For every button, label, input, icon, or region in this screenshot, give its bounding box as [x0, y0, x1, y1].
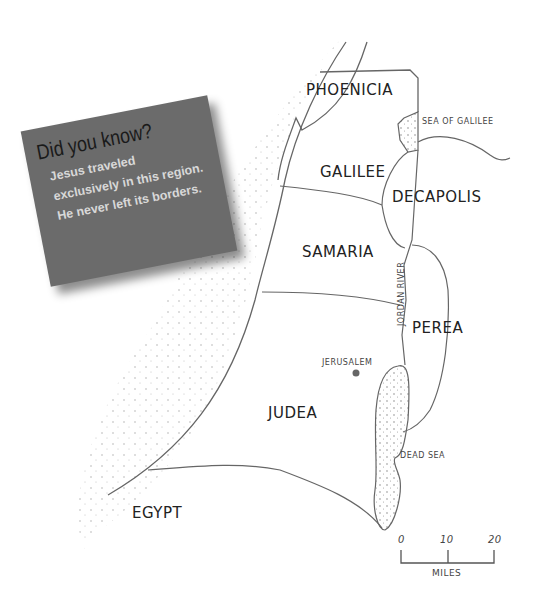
scale-tick-20: 20 — [488, 534, 502, 545]
label-samaria: SAMARIA — [302, 243, 374, 261]
label-egypt: EGYPT — [132, 504, 183, 522]
scale-unit: MILES — [432, 568, 461, 578]
label-sea-of-galilee: SEA OF GALILEE — [422, 117, 494, 126]
label-decapolis: DECAPOLIS — [392, 188, 481, 206]
map: PHOENICIA GALILEE DECAPOLIS SAMARIA PERE… — [0, 0, 535, 608]
perea-border — [403, 245, 448, 432]
scale-tick-0: 0 — [398, 534, 405, 545]
dead-sea — [374, 366, 409, 530]
jerusalem-marker[interactable] — [353, 370, 360, 377]
label-perea: PEREA — [412, 319, 463, 337]
judea-egypt-border — [148, 465, 382, 528]
scale-tick-10: 10 — [440, 534, 454, 545]
sea-of-galilee — [398, 112, 418, 152]
samaria-judea-border — [262, 292, 400, 305]
label-phoenicia: PHOENICIA — [306, 81, 393, 99]
decapolis-east-border — [418, 137, 510, 160]
label-dead-sea: DEAD SEA — [400, 451, 445, 460]
label-judea: JUDEA — [267, 404, 317, 422]
label-jerusalem: JERUSALEM — [321, 358, 372, 367]
scale-bar: 0 10 20 MILES — [398, 534, 502, 578]
label-galilee: GALILEE — [320, 163, 385, 181]
galilee-samaria-border — [280, 186, 382, 205]
label-jordan-river: JORDAN RIVER — [397, 262, 406, 327]
